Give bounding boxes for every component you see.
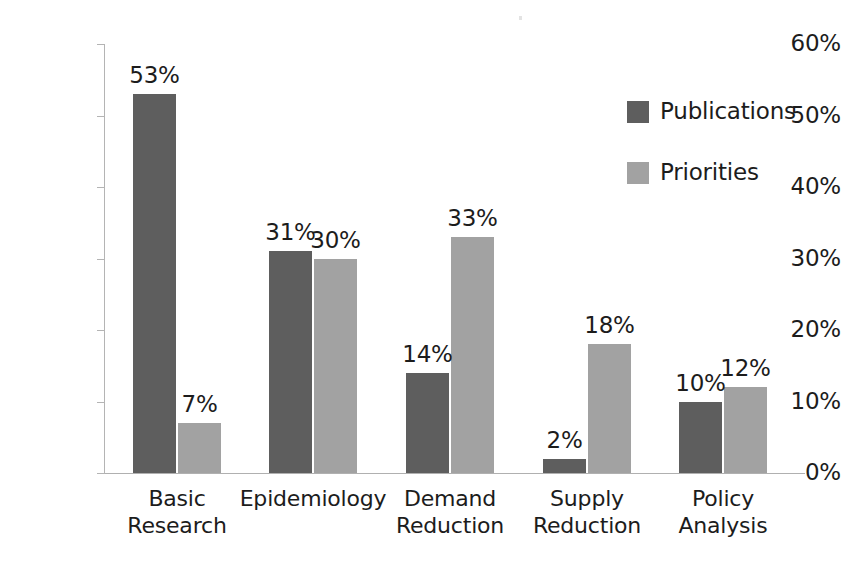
bar[interactable] [269, 251, 312, 473]
legend-item[interactable]: Priorities [627, 161, 796, 184]
bar[interactable] [588, 344, 631, 473]
bar-value-label: 53% [105, 64, 205, 87]
legend-label: Publications [660, 100, 796, 123]
category-label-line: Policy [633, 486, 813, 513]
legend-label: Priorities [660, 161, 759, 184]
bar[interactable] [133, 94, 176, 473]
x-axis-category-label: PolicyAnalysis [633, 486, 813, 540]
y-axis-tick-mark [97, 44, 105, 45]
bar[interactable] [543, 459, 586, 473]
y-axis-tick-mark [97, 187, 105, 188]
y-axis-tick-mark [97, 330, 105, 331]
bar-value-label: 30% [286, 229, 386, 252]
bar-group [543, 44, 631, 473]
bar-chart: 60%50%40%30%20%10%0% BasicResearchEpidem… [0, 0, 841, 587]
chart-legend: PublicationsPriorities [627, 100, 796, 222]
bar-value-label: 18% [560, 314, 660, 337]
y-axis-tick-mark [97, 259, 105, 260]
category-label-line: Analysis [633, 513, 813, 540]
y-axis-tick-mark [97, 116, 105, 117]
y-axis-tick-mark [97, 473, 105, 474]
bar-value-label: 7% [150, 393, 250, 416]
bar-group [269, 44, 357, 473]
bar[interactable] [406, 373, 449, 473]
x-axis-line [105, 473, 805, 474]
legend-item[interactable]: Publications [627, 100, 796, 123]
legend-swatch-icon [627, 162, 649, 184]
bar-value-label: 33% [423, 207, 523, 230]
bar[interactable] [724, 387, 767, 473]
category-label-line: Research [87, 513, 267, 540]
bar-group [406, 44, 494, 473]
bar[interactable] [679, 402, 722, 474]
bar[interactable] [178, 423, 221, 473]
legend-swatch-icon [627, 101, 649, 123]
scan-artifact [519, 16, 522, 20]
bar-value-label: 14% [378, 343, 478, 366]
bar-value-label: 12% [696, 357, 796, 380]
y-axis-tick-mark [97, 402, 105, 403]
bar[interactable] [314, 259, 357, 474]
bar-value-label: 2% [515, 429, 615, 452]
